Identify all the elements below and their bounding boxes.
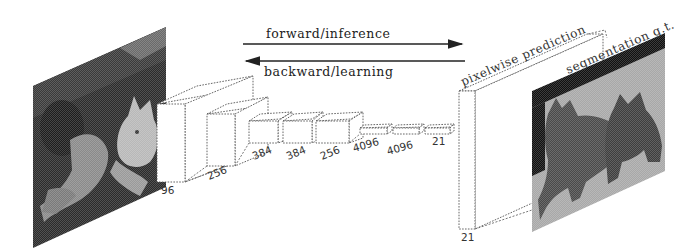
layer-4096-b bbox=[393, 124, 424, 134]
forward-label: forward/inference bbox=[266, 26, 391, 41]
layer-label-21: 21 bbox=[432, 135, 445, 147]
layer-256-b bbox=[316, 112, 363, 143]
output-channels-label: 21 bbox=[461, 231, 474, 243]
layer-4096-a bbox=[360, 124, 392, 134]
backward-label: backward/learning bbox=[264, 64, 394, 79]
layer-label-4096-b: 4096 bbox=[385, 138, 414, 157]
photo-icon bbox=[30, 20, 170, 252]
layer-21 bbox=[425, 124, 454, 134]
fcn-diagram: forward/inference backward/learning 96 2… bbox=[0, 0, 695, 252]
layer-label-96: 96 bbox=[161, 184, 175, 196]
input-image bbox=[30, 20, 170, 252]
layer-label-256-b: 256 bbox=[318, 143, 341, 162]
layer-label-384-b: 384 bbox=[284, 143, 307, 162]
